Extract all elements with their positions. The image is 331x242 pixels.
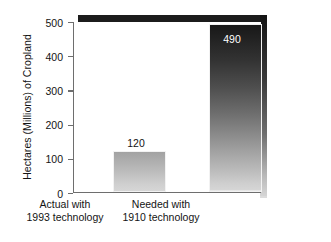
- y-tick-label-200: 200: [23, 119, 63, 131]
- x-category-label-1-line1: Needed with: [101, 198, 221, 211]
- y-tick-label-100: 100: [23, 153, 63, 165]
- y-axis-title: Hectares (Millions) of Cropland: [21, 17, 33, 197]
- bar-value-label-1: 490: [197, 33, 267, 45]
- plot-frame-right-shadow-foot: [260, 196, 268, 198]
- y-tick-label-500: 500: [23, 17, 63, 29]
- y-tick-label-300: 300: [23, 85, 63, 97]
- bar-value-label-0: 120: [101, 137, 171, 149]
- bar-actual-1993: [113, 151, 166, 192]
- bar-chart-figure: Hectares (Millions) of Cropland 500 400 …: [0, 0, 331, 242]
- y-tick-mark: [68, 193, 73, 194]
- x-category-label-1-line2: 1910 technology: [101, 211, 221, 224]
- plot-area: 120 490: [73, 22, 261, 193]
- y-tick-label-400: 400: [23, 51, 63, 63]
- x-category-label-1: Needed with 1910 technology: [101, 198, 221, 223]
- bar-needed-1910: [209, 24, 262, 192]
